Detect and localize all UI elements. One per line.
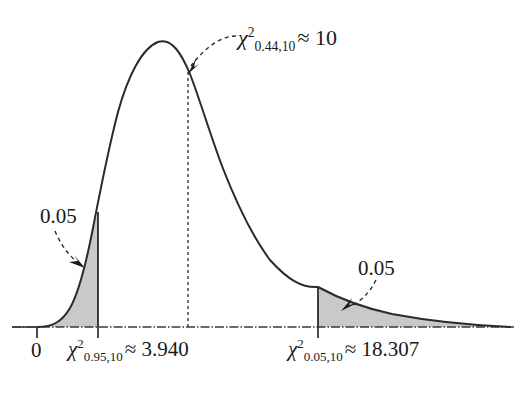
chi-relation: ≈ 3.940	[123, 337, 189, 361]
mode-annotation-arrowhead	[188, 58, 199, 74]
chi-subscript: 0.05,10	[304, 349, 343, 364]
chi-symbol: χ	[238, 25, 248, 50]
left-area-arrow-tail	[55, 231, 76, 261]
chi-subscript: 0.95,10	[84, 349, 123, 364]
mode-annotation-arrow-tail	[191, 36, 236, 66]
mode-annotation-label: χ20.44,10≈ 10	[238, 26, 337, 53]
density-curve	[38, 41, 510, 327]
right-tail-area-label: 0.05	[358, 258, 395, 279]
chi-symbol: χ	[68, 337, 77, 361]
chi-subscript: 0.44,10	[255, 39, 296, 54]
right-area-arrow-tail	[352, 280, 376, 306]
chi-square-chart: χ20.44,10≈ 10 0.05 0.05 0 χ20.95,10≈ 3.9…	[0, 0, 530, 414]
left-tail-area-label: 0.05	[40, 206, 77, 227]
chi-superscript: 2	[248, 25, 255, 40]
chi-relation: ≈ 10	[295, 25, 337, 50]
origin-tick-label: 0	[31, 340, 42, 361]
chi-relation: ≈ 18.307	[343, 337, 420, 361]
right-critical-value-label: χ20.05,10≈ 18.307	[288, 337, 419, 363]
chi-symbol: χ	[288, 337, 297, 361]
left-critical-value-label: χ20.95,10≈ 3.940	[68, 337, 189, 363]
